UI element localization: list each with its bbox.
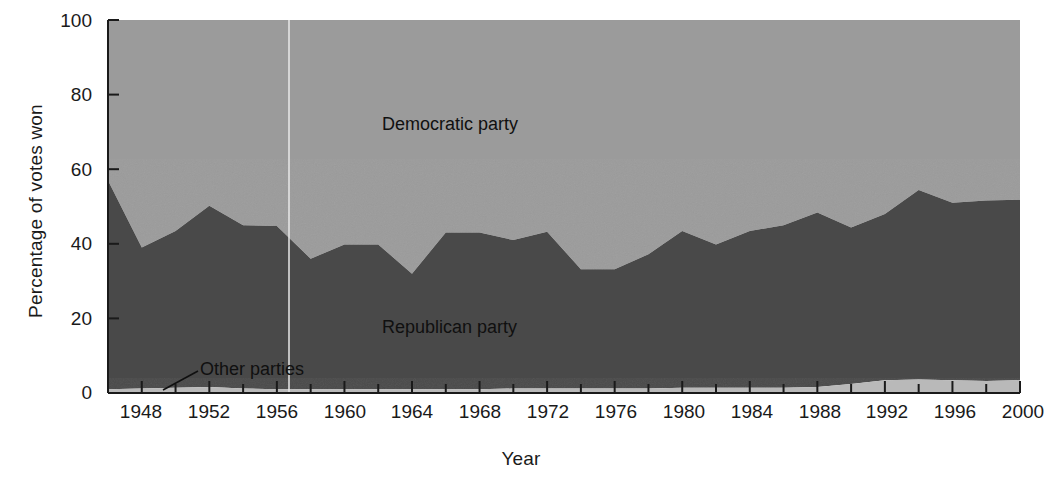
scan-artifact-streak — [288, 20, 290, 393]
chart-figure: Percentage of votes won Year 100 80 60 4… — [0, 0, 1054, 486]
plot-area — [0, 0, 1054, 486]
other-parties-label: Other parties — [200, 359, 304, 380]
republican-party-label: Republican party — [382, 317, 517, 338]
democratic-party-label: Democratic party — [382, 114, 518, 135]
